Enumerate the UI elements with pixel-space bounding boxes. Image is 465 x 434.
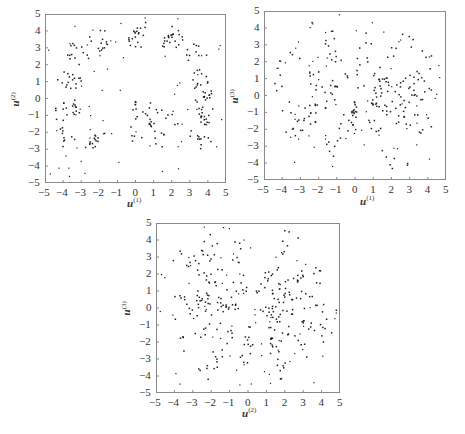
y-tick-label: −5 — [139, 387, 151, 398]
y-axis-label: u(3) — [120, 301, 133, 315]
x-tick-label: −2 — [204, 397, 216, 408]
y-tick-label: 4 — [146, 234, 152, 245]
y-tick-label: 1 — [146, 285, 152, 296]
x-tick-label: 1 — [263, 397, 269, 408]
y-tick-label: 2 — [146, 268, 152, 279]
y-tick-label: 5 — [146, 217, 152, 228]
x-tick-label: 4 — [319, 397, 325, 408]
x-tick-label: −3 — [186, 397, 198, 408]
y-tick-label: −4 — [139, 370, 151, 381]
x-tick-label: 5 — [337, 397, 343, 408]
x-axis-label: u(2) — [242, 406, 256, 419]
scatter-points — [0, 0, 465, 434]
x-tick-label: −1 — [223, 397, 235, 408]
y-tick-label: 0 — [146, 302, 152, 313]
x-tick-label: −4 — [167, 397, 179, 408]
x-tick-label: −5 — [149, 397, 161, 408]
y-tick-label: −2 — [139, 336, 151, 347]
scatter-panel-u2-u3: −5−4−3−2−1012345543210−1−2−3−4−5 u(2) u(… — [0, 0, 465, 434]
x-tick-label: 3 — [300, 397, 306, 408]
y-tick-label: 3 — [146, 251, 152, 262]
y-tick-label: −1 — [139, 319, 151, 330]
x-tick-label: 2 — [282, 397, 288, 408]
y-tick-label: −3 — [139, 353, 151, 364]
